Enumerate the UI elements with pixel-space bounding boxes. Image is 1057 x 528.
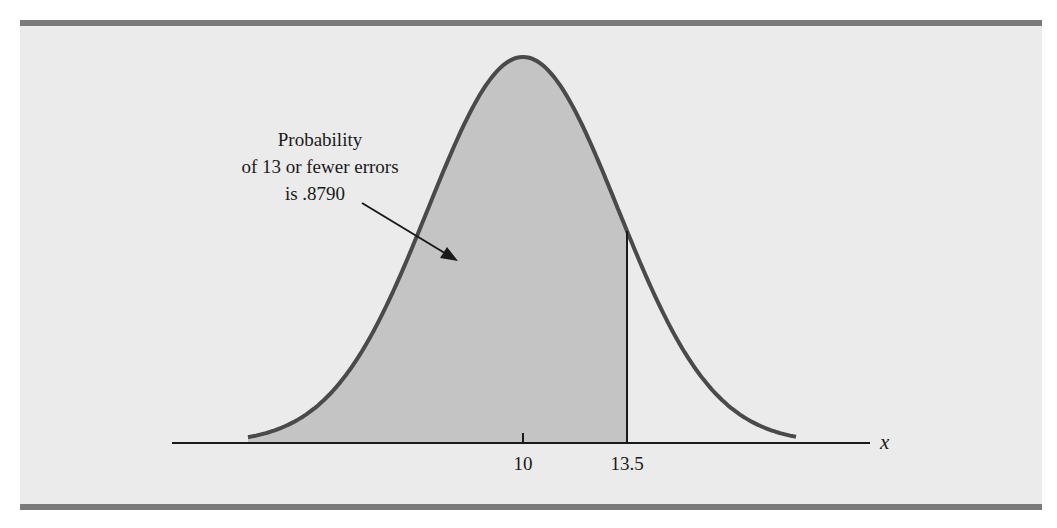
top-rule — [20, 20, 1042, 26]
normal-distribution-figure: 10 13.5 x Probability of 13 or fewer err… — [0, 0, 1057, 528]
annotation-line-1: Probability — [278, 129, 363, 150]
tick-label-13-5: 13.5 — [610, 453, 643, 474]
bottom-rule — [20, 504, 1042, 510]
annotation-line-3: is .8790 — [285, 183, 345, 204]
annotation-line-2: of 13 or fewer errors — [241, 156, 398, 177]
x-axis-label: x — [879, 430, 890, 454]
tick-label-10: 10 — [514, 453, 533, 474]
